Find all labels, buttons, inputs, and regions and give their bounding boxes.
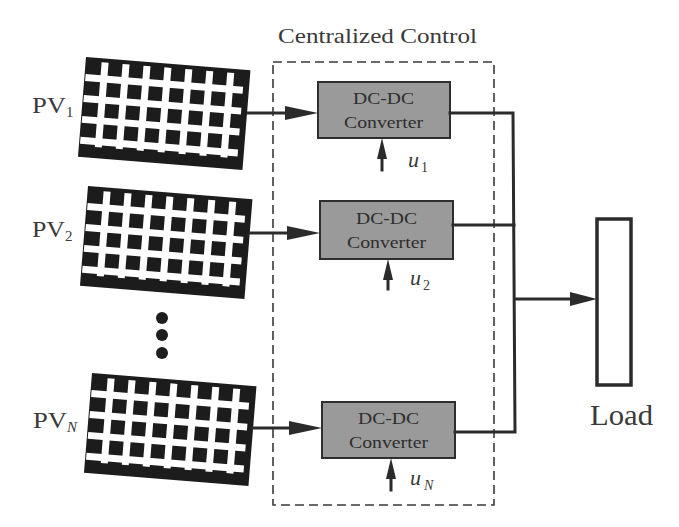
- converter-line2: Converter: [347, 233, 426, 252]
- solar-panel-icon-n: [84, 373, 256, 486]
- converter-line2: Converter: [349, 433, 428, 452]
- load-block: [597, 219, 631, 385]
- control-variable: u: [410, 265, 421, 290]
- pv-label-subscript: N: [66, 419, 78, 435]
- dc-dc-converter-1: DC-DC Converter: [318, 82, 450, 138]
- control-label-2: u 2: [410, 265, 430, 293]
- pv-label-2: PV 2: [32, 216, 73, 244]
- converter-line2: Converter: [344, 113, 423, 132]
- control-label-1: u 1: [408, 147, 428, 175]
- converter-line1: DC-DC: [356, 209, 417, 228]
- pv-label-text: PV: [33, 407, 68, 433]
- control-variable: u: [410, 465, 421, 490]
- pv-label-n: PV N: [33, 407, 78, 435]
- bus-to-load-arrow: [515, 292, 597, 306]
- pv2-to-converter2-arrow: [250, 226, 320, 240]
- control-subscript: 2: [423, 278, 430, 293]
- pvn-to-convertern-arrow: [252, 421, 322, 435]
- dc-dc-converter-n: DC-DC Converter: [322, 402, 455, 458]
- solar-panel-icon-2: [80, 186, 252, 299]
- converter-line1: DC-DC: [353, 89, 414, 108]
- pv-centralized-control-diagram: Centralized Control PV 1 PV 2 PV N DC-DC: [0, 0, 679, 527]
- pv-label-1: PV 1: [32, 92, 74, 120]
- control-variable: u: [408, 147, 419, 172]
- solar-panel-icon-1: [78, 57, 250, 170]
- control-input-arrow-1: [377, 138, 387, 170]
- output-bus: [450, 113, 515, 432]
- control-input-arrow-n: [386, 458, 396, 490]
- control-label-n: u N: [410, 465, 434, 493]
- load-label: Load: [590, 398, 653, 431]
- pv-label-subscript: 2: [65, 228, 73, 244]
- control-input-arrow-2: [383, 259, 393, 289]
- converter-line1: DC-DC: [358, 409, 419, 428]
- centralized-control-title: Centralized Control: [278, 24, 477, 48]
- pv-label-text: PV: [32, 92, 67, 118]
- control-subscript: 1: [421, 160, 428, 175]
- vertical-ellipsis-icon: [156, 312, 168, 359]
- dc-dc-converter-2: DC-DC Converter: [320, 201, 453, 259]
- pv-label-subscript: 1: [66, 104, 74, 120]
- pv-label-text: PV: [32, 216, 66, 242]
- pv1-to-converter1-arrow: [248, 106, 318, 120]
- control-subscript: N: [423, 478, 434, 493]
